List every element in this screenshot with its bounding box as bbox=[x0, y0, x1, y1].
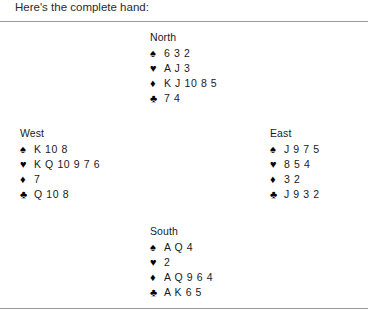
hand-south-clubs: A K 6 5 bbox=[164, 285, 202, 300]
hand-east-diamonds-row: ♦ 3 2 bbox=[270, 172, 320, 187]
hand-west-hearts-row: ♥ K Q 10 9 7 6 bbox=[20, 157, 100, 172]
horizontal-rule-top bbox=[0, 21, 368, 22]
hand-north-spades: 6 3 2 bbox=[164, 46, 190, 61]
hand-south-label: South bbox=[150, 224, 213, 239]
hand-east-spades-row: ♠ J 9 7 5 bbox=[270, 142, 320, 157]
hand-north-clubs: 7 4 bbox=[164, 91, 180, 106]
hand-west-spades-row: ♠ K 10 8 bbox=[20, 142, 100, 157]
hand-east-clubs-row: ♣ J 9 3 2 bbox=[270, 187, 320, 202]
hand-west-diamonds: 7 bbox=[34, 172, 40, 187]
diamond-icon: ♦ bbox=[150, 76, 164, 91]
hand-east-spades: J 9 7 5 bbox=[284, 142, 320, 157]
hand-west-clubs-row: ♣ Q 10 8 bbox=[20, 187, 100, 202]
hand-south-spades: A Q 4 bbox=[164, 240, 193, 255]
hand-south-spades-row: ♠ A Q 4 bbox=[150, 240, 213, 255]
hand-north-clubs-row: ♣ 7 4 bbox=[150, 91, 217, 106]
hand-north-diamonds: K J 10 8 5 bbox=[164, 76, 217, 91]
spade-icon: ♠ bbox=[150, 240, 164, 255]
hand-west-hearts: K Q 10 9 7 6 bbox=[34, 157, 100, 172]
spade-icon: ♠ bbox=[270, 142, 284, 157]
diamond-icon: ♦ bbox=[20, 172, 34, 187]
hand-north-hearts-row: ♥ A J 3 bbox=[150, 61, 217, 76]
hand-east-clubs: J 9 3 2 bbox=[284, 187, 320, 202]
spade-icon: ♠ bbox=[150, 46, 164, 61]
hand-east-hearts-row: ♥ 8 5 4 bbox=[270, 157, 320, 172]
hand-east-hearts: 8 5 4 bbox=[284, 157, 310, 172]
hand-north-spades-row: ♠ 6 3 2 bbox=[150, 46, 217, 61]
club-icon: ♣ bbox=[150, 91, 164, 106]
intro-text: Here's the complete hand: bbox=[15, 0, 149, 14]
hand-north-diamonds-row: ♦ K J 10 8 5 bbox=[150, 76, 217, 91]
hand-south: South ♠ A Q 4 ♥ 2 ♦ A Q 9 6 4 ♣ A K 6 5 bbox=[150, 224, 213, 300]
club-icon: ♣ bbox=[270, 187, 284, 202]
hand-east: East ♠ J 9 7 5 ♥ 8 5 4 ♦ 3 2 ♣ J 9 3 2 bbox=[270, 126, 320, 202]
hand-south-clubs-row: ♣ A K 6 5 bbox=[150, 285, 213, 300]
hand-west-clubs: Q 10 8 bbox=[34, 187, 69, 202]
club-icon: ♣ bbox=[150, 285, 164, 300]
hand-east-diamonds: 3 2 bbox=[284, 172, 300, 187]
diamond-icon: ♦ bbox=[150, 270, 164, 285]
hand-east-label: East bbox=[270, 126, 320, 141]
diamond-icon: ♦ bbox=[270, 172, 284, 187]
heart-icon: ♥ bbox=[20, 157, 34, 172]
hand-south-diamonds-row: ♦ A Q 9 6 4 bbox=[150, 270, 213, 285]
club-icon: ♣ bbox=[20, 187, 34, 202]
hand-south-hearts-row: ♥ 2 bbox=[150, 255, 213, 270]
spade-icon: ♠ bbox=[20, 142, 34, 157]
heart-icon: ♥ bbox=[270, 157, 284, 172]
hand-west-spades: K 10 8 bbox=[34, 142, 68, 157]
hand-south-diamonds: A Q 9 6 4 bbox=[164, 270, 213, 285]
heart-icon: ♥ bbox=[150, 61, 164, 76]
hand-north-hearts: A J 3 bbox=[164, 61, 190, 76]
hand-west: West ♠ K 10 8 ♥ K Q 10 9 7 6 ♦ 7 ♣ Q 10 … bbox=[20, 126, 100, 202]
hand-west-label: West bbox=[20, 126, 100, 141]
hand-south-hearts: 2 bbox=[164, 255, 170, 270]
hand-north: North ♠ 6 3 2 ♥ A J 3 ♦ K J 10 8 5 ♣ 7 4 bbox=[150, 30, 217, 106]
hand-north-label: North bbox=[150, 30, 217, 45]
horizontal-rule-bottom bbox=[0, 308, 368, 309]
heart-icon: ♥ bbox=[150, 255, 164, 270]
hand-west-diamonds-row: ♦ 7 bbox=[20, 172, 100, 187]
